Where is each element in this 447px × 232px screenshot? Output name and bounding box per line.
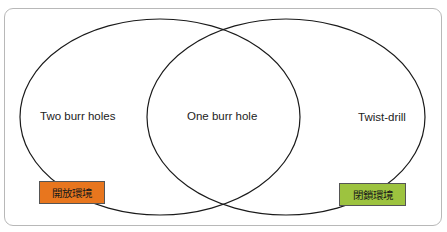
intersection-label: One burr hole	[187, 110, 257, 122]
closed-environment-label: 閉鎖環境	[353, 187, 393, 202]
open-environment-label: 開放環境	[52, 185, 92, 200]
left-set-label: Two burr holes	[40, 110, 115, 122]
right-set-label: Twist-drill	[358, 111, 406, 123]
closed-environment-tag: 閉鎖環境	[339, 183, 406, 206]
open-environment-tag: 開放環境	[39, 181, 105, 204]
